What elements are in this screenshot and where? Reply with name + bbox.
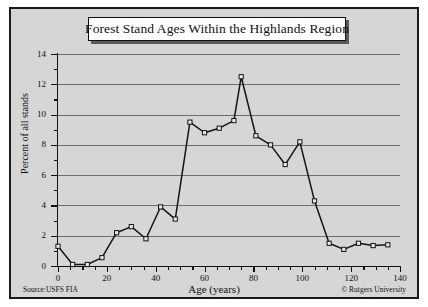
data-point-marker: [312, 199, 316, 203]
data-point-marker: [371, 243, 375, 247]
data-point-marker: [202, 131, 206, 135]
data-point-marker: [173, 217, 177, 221]
data-point-marker: [144, 237, 148, 241]
data-point-marker: [159, 205, 163, 209]
copyright-note: © Rutgers University: [342, 285, 406, 294]
data-point-marker: [56, 244, 60, 248]
y-axis-title: Percent of all stands: [19, 69, 30, 199]
data-point-marker: [283, 162, 287, 166]
data-point-marker: [342, 247, 346, 251]
data-point-marker: [386, 243, 390, 247]
chart-figure: Forest Stand Ages Within the Highlands R…: [0, 0, 428, 307]
data-series-layer: [0, 0, 428, 307]
data-point-marker: [356, 241, 360, 245]
series-line: [58, 77, 388, 265]
data-point-marker: [239, 75, 243, 79]
source-note: Source:USFS FIA: [23, 285, 78, 294]
data-point-marker: [254, 134, 258, 138]
data-point-marker: [327, 241, 331, 245]
data-point-marker: [100, 256, 104, 260]
data-point-marker: [188, 120, 192, 124]
data-point-marker: [85, 262, 89, 266]
data-point-marker: [129, 225, 133, 229]
data-point-marker: [115, 231, 119, 235]
data-point-marker: [217, 126, 221, 130]
data-point-marker: [298, 140, 302, 144]
data-point-marker: [232, 119, 236, 123]
data-point-marker: [268, 143, 272, 147]
data-point-marker: [71, 262, 75, 266]
